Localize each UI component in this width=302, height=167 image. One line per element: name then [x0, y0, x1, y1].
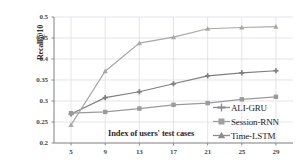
legend-item-ali-gru: ALI-GRU	[213, 101, 279, 114]
legend-marker-square-icon	[213, 116, 230, 127]
data-point	[137, 106, 141, 110]
data-point	[69, 111, 73, 115]
chart-legend: ALI-GRU Session-RNN Time-LSTM	[213, 101, 279, 142]
legend-item-session-rnn: Session-RNN	[213, 115, 279, 128]
x-tick-label: 25	[234, 148, 250, 156]
y-axis-title: Recall@10	[36, 0, 45, 60]
x-axis-title: Index of users' test cases	[108, 128, 194, 138]
legend-label-session-rnn: Session-RNN	[230, 117, 279, 127]
x-tick-label: 21	[200, 148, 216, 156]
legend-marker-triangle-icon	[213, 130, 230, 141]
x-tick-label: 5	[63, 148, 79, 156]
data-point	[103, 110, 107, 114]
data-point	[171, 103, 175, 107]
data-point	[205, 101, 209, 105]
legend-label-ali-gru: ALI-GRU	[230, 103, 267, 113]
x-tick-label: 9	[97, 148, 113, 156]
legend-item-time-lstm: Time-LSTM	[213, 129, 279, 142]
x-tick-label: 13	[131, 148, 147, 156]
x-tick-label: 17	[166, 148, 182, 156]
y-tick-label: 0.25	[26, 118, 48, 126]
data-point	[274, 95, 278, 99]
y-tick-label: 0.2	[26, 139, 48, 147]
legend-marker-plus-icon	[213, 102, 230, 113]
y-tick-label: 0.35	[26, 76, 48, 84]
recall-at-10-line-chart: 0.50.450.40.350.30.250.2 591317212529 Re…	[0, 0, 302, 167]
x-tick-label: 29	[268, 148, 284, 156]
y-tick-label: 0.3	[26, 97, 48, 105]
legend-label-time-lstm: Time-LSTM	[230, 131, 275, 141]
